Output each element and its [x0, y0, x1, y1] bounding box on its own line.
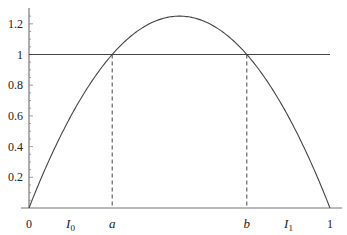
x-tick-label: 1 — [327, 217, 333, 231]
x-tick-label: I1 — [283, 216, 293, 233]
y-tick-label: 0.8 — [8, 78, 23, 92]
chart: 0.20.40.60.811.20I0abI11 — [0, 0, 347, 235]
labels: 0.20.40.60.811.20I0abI11 — [8, 17, 333, 233]
x-tick-label: b — [244, 216, 251, 231]
y-tick-label: 0.4 — [8, 140, 23, 154]
subscript: 1 — [288, 223, 293, 233]
x-tick-label: 0 — [26, 217, 32, 231]
x-tick-label: a — [109, 216, 116, 231]
y-tick-label: 0.2 — [8, 170, 23, 184]
axes — [21, 8, 342, 208]
y-tick-label: 1.2 — [8, 17, 23, 31]
subscript: 0 — [70, 223, 75, 233]
curve-series — [29, 16, 330, 208]
x-tick-label: I0 — [65, 216, 75, 233]
y-tick-label: 1 — [17, 48, 23, 62]
marks — [29, 16, 330, 208]
y-tick-label: 0.6 — [8, 109, 23, 123]
